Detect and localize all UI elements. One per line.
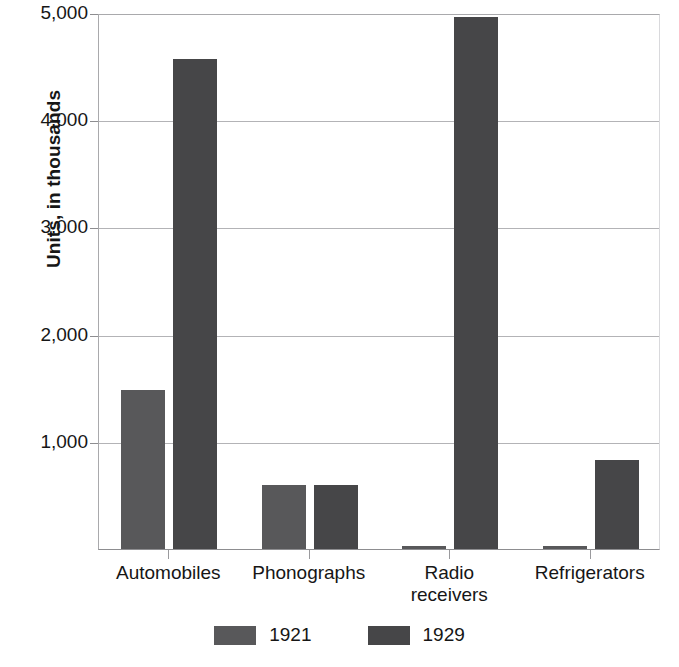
y-tick-mark-2000 <box>90 336 98 337</box>
bar-refrigerators-1921 <box>543 546 587 549</box>
legend-swatch-1921 <box>214 626 256 645</box>
y-tick-mark-1000 <box>90 443 98 444</box>
legend-item-1921[interactable]: 1921 <box>214 624 311 646</box>
y-tick-mark-3000 <box>90 228 98 229</box>
x-category-label-refrigerators: Refrigerators <box>500 562 679 584</box>
y-axis-title: Units, in thousands <box>43 29 65 329</box>
legend: 19211929 <box>0 624 679 646</box>
plot-area <box>98 14 660 550</box>
legend-item-1929[interactable]: 1929 <box>368 624 465 646</box>
x-tick-mark-1 <box>309 550 310 559</box>
bar-automobiles-1929 <box>173 59 217 549</box>
bars-layer <box>99 15 659 549</box>
bar-phonographs-1929 <box>314 485 358 549</box>
bar-phonographs-1921 <box>262 485 306 549</box>
legend-label-1929: 1929 <box>423 624 465 646</box>
y-tick-mark-5000 <box>90 14 98 15</box>
y-tick-label-4000: 4,000 <box>0 109 88 131</box>
y-tick-mark-4000 <box>90 121 98 122</box>
x-tick-mark-2 <box>449 550 450 559</box>
bar-automobiles-1921 <box>121 390 165 549</box>
y-tick-label-3000: 3,000 <box>0 216 88 238</box>
bar-chart-figure: Units, in thousands 1,0002,0003,0004,000… <box>0 0 679 667</box>
legend-label-1921: 1921 <box>269 624 311 646</box>
bar-refrigerators-1929 <box>595 460 639 549</box>
y-tick-label-2000: 2,000 <box>0 324 88 346</box>
bar-radio-receivers-1921 <box>402 546 446 549</box>
y-tick-label-5000: 5,000 <box>0 2 88 24</box>
x-tick-mark-0 <box>168 550 169 559</box>
x-tick-mark-3 <box>590 550 591 559</box>
bar-radio-receivers-1929 <box>454 17 498 549</box>
y-tick-label-1000: 1,000 <box>0 431 88 453</box>
legend-swatch-1929 <box>368 626 410 645</box>
